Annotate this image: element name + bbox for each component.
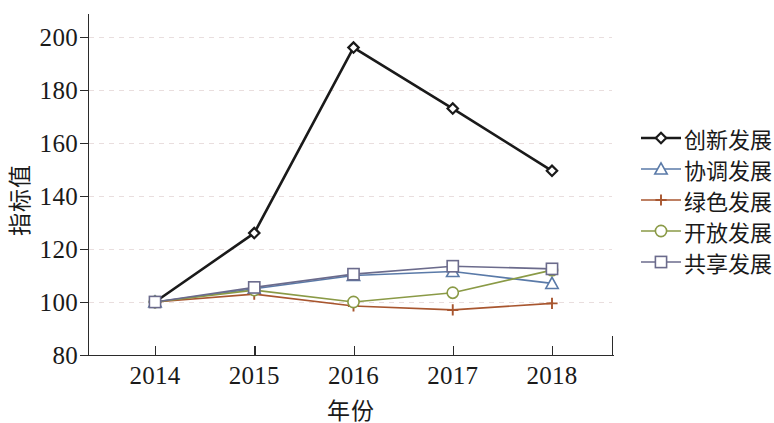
y-axis-tick [80,355,88,356]
data-point-marker [249,228,259,238]
y-axis-tick [80,90,88,91]
x-axis-tick [155,346,156,355]
data-point-marker [448,103,458,113]
legend-label: 开放发展 [684,215,772,247]
legend-marker-icon [640,158,682,180]
gridline [89,196,612,197]
x-axis-tick-label: 2016 [299,362,409,390]
data-point-marker [546,298,557,309]
y-axis-tick-label: 180 [6,78,78,103]
data-point-marker [249,282,260,293]
legend-item[interactable]: 开放发展 [640,215,774,246]
series-line [155,270,552,302]
y-axis-tick [80,37,88,38]
gridline [89,302,612,303]
data-point-marker [447,261,458,272]
legend-label: 创新发展 [684,122,772,154]
legend-label: 共享发展 [684,246,772,278]
data-point-marker [348,42,358,52]
x-axis-tick-label: 2017 [398,362,508,390]
y-axis-tick-label: 100 [6,290,78,315]
data-point-marker [348,269,359,280]
data-point-marker [447,265,459,276]
data-point-marker [447,304,458,315]
x-axis-tick [552,346,553,355]
legend-marker-icon [640,220,682,242]
data-point-marker [249,288,260,299]
line-chart: 80100120140160180200 2014201520162017201… [0,0,774,423]
data-point-marker [447,287,458,298]
legend-label: 协调发展 [684,153,772,185]
x-axis-line [88,355,614,356]
x-axis-tick [354,346,355,355]
legend-item[interactable]: 协调发展 [640,153,774,184]
series-line [155,48,552,302]
y-axis-tick [80,143,88,144]
y-axis-line [88,14,89,356]
legend-marker-icon [640,189,682,211]
chart-legend: 创新发展协调发展绿色发展开放发展共享发展 [640,122,774,277]
data-point-marker [547,166,557,176]
data-point-marker [546,263,557,274]
x-axis-tick [453,346,454,355]
legend-marker-icon [640,251,682,273]
gridline [89,37,612,38]
gridline [89,90,612,91]
x-axis-tick-label: 2018 [497,362,607,390]
legend-item[interactable]: 绿色发展 [640,184,774,215]
legend-item[interactable]: 创新发展 [640,122,774,153]
data-point-marker [347,269,359,280]
series-line [155,266,552,302]
y-axis-tick [80,196,88,197]
y-axis-title: 指标值 [1,130,35,270]
x-axis-tick [254,346,255,355]
data-point-marker [546,277,558,288]
x-axis-tick-label: 2014 [100,362,210,390]
x-axis-right-cap [612,336,613,356]
y-axis-tick [80,302,88,303]
y-axis-tick-label: 80 [6,343,78,368]
gridline [89,249,612,250]
data-point-marker [546,265,557,276]
y-axis-tick [80,249,88,250]
data-point-marker [249,284,260,295]
legend-item[interactable]: 共享发展 [640,246,774,277]
data-point-marker [248,283,260,294]
x-axis-title: 年份 [88,392,614,423]
y-axis-tick-label: 200 [6,25,78,50]
legend-marker-icon [640,127,682,149]
series-line [155,272,552,302]
legend-label: 绿色发展 [684,184,772,216]
x-axis-tick-label: 2015 [199,362,309,390]
gridline [89,143,612,144]
